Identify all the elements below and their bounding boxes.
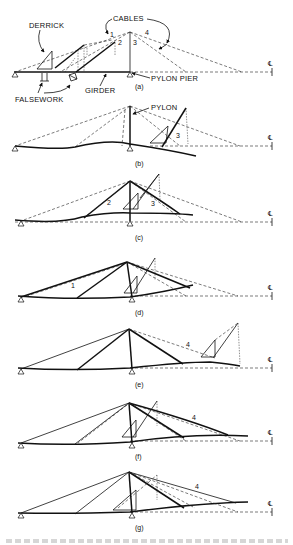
pylon-pier-leader: [132, 73, 150, 78]
panel-label-c: (c): [135, 234, 143, 242]
hoist-line: [159, 174, 160, 200]
cable: [21, 472, 129, 513]
cable: [130, 32, 186, 72]
derrick: [122, 420, 136, 437]
pylon-pier-support: [129, 443, 135, 448]
panel-label-b: (b): [135, 160, 144, 168]
cable: [78, 405, 127, 443]
cable-number: 4: [186, 341, 190, 348]
figure-caption-cutoff: [6, 539, 288, 543]
girder: [15, 142, 196, 156]
centerline-symbol: ℄: [267, 284, 273, 291]
cable-number: 3: [133, 39, 137, 46]
cable-number: 1: [110, 31, 114, 38]
pylon-pier-label: PYLON PIER: [151, 74, 198, 83]
cable: [21, 403, 129, 443]
centerline-symbol: ℄: [267, 429, 273, 436]
cable: [77, 329, 129, 370]
cable-number: 4: [145, 29, 149, 36]
cable: [127, 262, 238, 296]
cable-4: [129, 472, 236, 503]
pylon-pier-support: [127, 146, 133, 151]
panel-label-e: (e): [135, 381, 144, 389]
falsework-leader: [44, 85, 70, 93]
girder: [15, 213, 193, 222]
pylon: [127, 262, 132, 297]
centerline-symbol: ℄: [267, 134, 273, 141]
cable: [84, 40, 112, 45]
cable-number: 2: [118, 39, 122, 46]
bridge-erection-diagram: ℄ DERRICK CABLES 1 2 3 4 PYLON P: [0, 0, 293, 545]
cable: [75, 106, 130, 147]
derrick-leader: [39, 30, 44, 52]
girder: [18, 502, 248, 513]
panel-label-f: (f): [135, 453, 142, 461]
cable-number: 3: [176, 132, 180, 139]
cable-number: 1: [71, 282, 75, 289]
cable: [129, 403, 184, 438]
falsework-leader: [38, 83, 42, 93]
cable: [77, 262, 127, 298]
centerline-symbol: ℄: [267, 500, 273, 507]
panel-f: ℄ 4 (f): [18, 401, 273, 461]
girder-leader: [100, 74, 106, 86]
cable: [127, 262, 186, 296]
cable-number: 2: [107, 199, 111, 206]
cable-number: 4: [195, 483, 199, 490]
panel-label-g: (g): [135, 524, 144, 532]
cable: [129, 329, 183, 364]
cable: [215, 323, 238, 340]
falsework-bent: [69, 73, 77, 81]
cable: [130, 32, 242, 72]
cables-label: CABLES: [113, 14, 144, 23]
derrick: [113, 490, 136, 510]
panel-label-a: (a): [135, 83, 144, 91]
brace: [65, 58, 75, 72]
cable: [21, 329, 129, 369]
cable-4: [129, 329, 215, 358]
cable: [127, 262, 190, 288]
girder: [18, 362, 240, 370]
centerline-symbol: ℄: [267, 60, 273, 67]
cable: [75, 403, 129, 444]
derrick-boom: [213, 323, 238, 358]
derrick-boom: [133, 258, 155, 293]
girder-label: GIRDER: [85, 86, 116, 95]
derrick: [37, 51, 52, 69]
derrick-boom: [55, 45, 84, 68]
centerline-symbol: ℄: [267, 356, 273, 363]
end-support: [18, 221, 24, 226]
derrick-label: DERRICK: [29, 21, 64, 30]
cable: [122, 110, 125, 146]
cable-number: 3: [151, 200, 155, 207]
cable: [129, 472, 184, 508]
hoist-line: [186, 108, 188, 144]
pylon-label: PYLON: [151, 103, 177, 112]
end-support: [18, 369, 24, 374]
cable: [15, 106, 130, 146]
pylon: [129, 329, 132, 369]
falsework-label: FALSEWORK: [15, 95, 63, 104]
panel-d: ℄ 1 (d): [18, 258, 273, 317]
cable: [75, 472, 129, 514]
cable-number: 4: [192, 414, 196, 421]
pylon-leader: [133, 108, 149, 114]
derrick: [201, 340, 215, 357]
derrick-boom: [118, 475, 157, 508]
panel-e: ℄ 4 (e): [18, 323, 273, 389]
pylon-pier-support: [129, 513, 135, 518]
cable: [60, 32, 130, 72]
panel-b: ℄ 3 PYLON (b): [12, 103, 273, 168]
cable: [130, 106, 240, 146]
cable: [24, 264, 124, 297]
cable: [21, 181, 130, 221]
pylon-pier-support: [129, 369, 135, 374]
panel-a: ℄ DERRICK CABLES 1 2 3 4 PYLON P: [12, 14, 273, 104]
pylon: [129, 472, 132, 513]
falsework-bent: [40, 73, 49, 81]
panel-label-d: (d): [135, 309, 144, 317]
cable-1: [21, 262, 127, 297]
panel-g: ℄ 4 (g): [18, 472, 273, 532]
hoist-line: [238, 323, 240, 364]
end-support: [18, 297, 24, 302]
